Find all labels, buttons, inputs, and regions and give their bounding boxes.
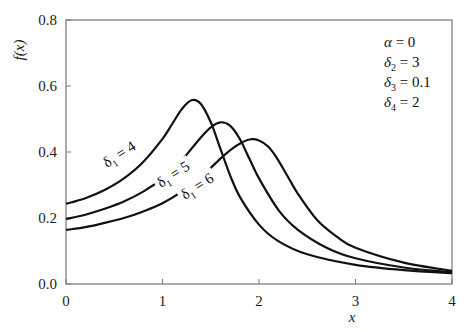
x-tick-label: 3 bbox=[352, 293, 360, 309]
x-tick-label: 0 bbox=[62, 293, 70, 309]
parameter-box: α = 0 δ2 = 3 δ3 = 0.1 δ4 = 2 bbox=[384, 34, 431, 113]
param-delta2: δ2 = 3 bbox=[384, 54, 419, 73]
chart: 0.00.20.40.60.8 01234 f(x) x α = 0 δ2 = … bbox=[0, 0, 471, 332]
x-tick-label: 1 bbox=[159, 293, 167, 309]
param-delta3: δ3 = 0.1 bbox=[384, 74, 431, 93]
y-tick-label: 0.4 bbox=[38, 144, 57, 160]
y-axis-title: f(x) bbox=[11, 40, 28, 61]
x-tick-label: 4 bbox=[448, 293, 456, 309]
y-tick-label: 0.2 bbox=[38, 210, 57, 226]
y-tick-label: 0.0 bbox=[38, 276, 57, 292]
curves bbox=[66, 100, 452, 273]
curve-delta1-4 bbox=[66, 100, 452, 273]
param-delta4: δ4 = 2 bbox=[384, 94, 419, 113]
curve-labels: δ1 = 4 δ1 = 5 δ1 = 6 bbox=[97, 135, 222, 208]
y-tick-label: 0.6 bbox=[38, 78, 57, 94]
y-tick-label: 0.8 bbox=[38, 12, 57, 28]
x-tick-label: 2 bbox=[255, 293, 263, 309]
param-alpha: α = 0 bbox=[384, 34, 415, 50]
x-axis-title: x bbox=[348, 309, 356, 325]
